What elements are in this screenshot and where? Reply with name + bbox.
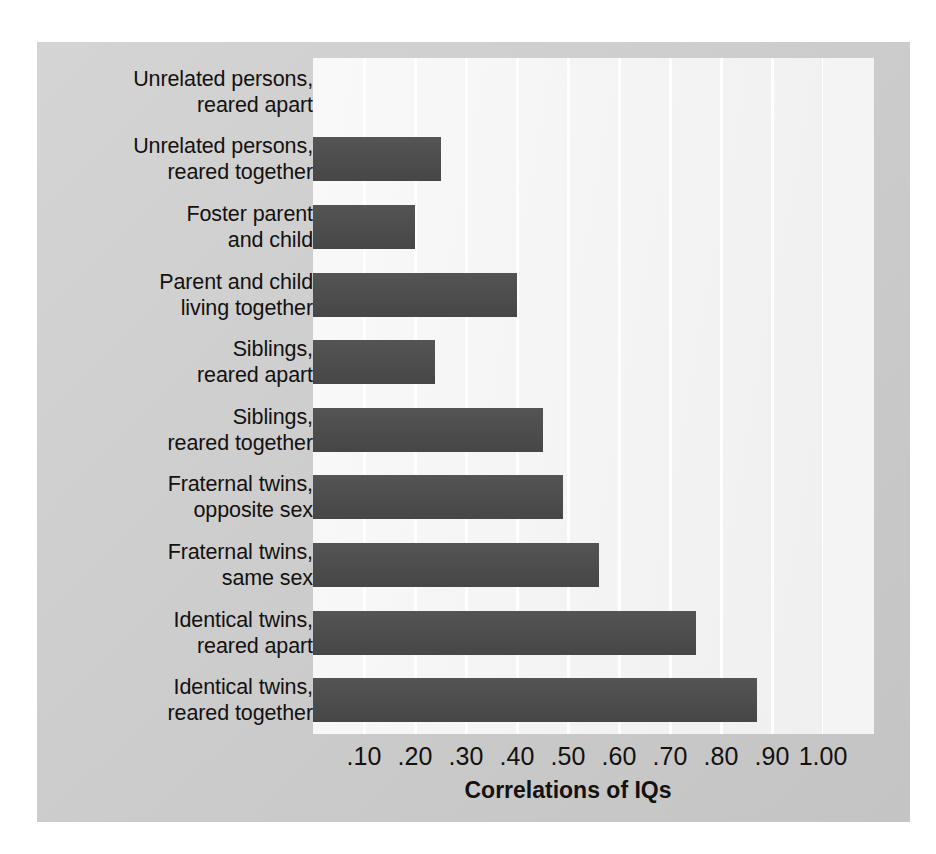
category-label: Siblings,reared apart	[47, 336, 313, 388]
bar	[313, 678, 757, 722]
category-label-line: living together	[47, 295, 313, 321]
category-label: Parent and childliving together	[47, 269, 313, 321]
bar	[313, 543, 599, 587]
x-tick-label: .20	[398, 742, 433, 771]
category-label-line: and child	[47, 227, 313, 253]
category-label: Unrelated persons,reared together	[47, 133, 313, 185]
category-axis-labels: Unrelated persons,reared apartUnrelated …	[47, 58, 313, 734]
x-tick-label: .40	[500, 742, 535, 771]
category-label: Identical twins,reared apart	[47, 607, 313, 659]
bar	[313, 611, 696, 655]
category-label-line: reared together	[47, 430, 313, 456]
x-tick-label: 1.00	[799, 742, 848, 771]
category-label-line: Identical twins,	[47, 674, 313, 700]
category-label-line: Fraternal twins,	[47, 539, 313, 565]
category-label-line: reared apart	[47, 633, 313, 659]
x-tick-label: .60	[602, 742, 637, 771]
x-tick-label: .80	[704, 742, 739, 771]
category-label: Foster parentand child	[47, 201, 313, 253]
bar-chart: Unrelated persons,reared apartUnrelated …	[37, 42, 910, 822]
bar	[313, 205, 415, 249]
gridline	[771, 58, 774, 734]
category-label: Unrelated persons,reared apart	[47, 66, 313, 118]
category-label-line: same sex	[47, 565, 313, 591]
bar	[313, 137, 441, 181]
chart-panel: Unrelated persons,reared apartUnrelated …	[37, 42, 910, 822]
x-tick-label: .50	[551, 742, 586, 771]
category-label: Fraternal twins,opposite sex	[47, 471, 313, 523]
bar	[313, 340, 435, 384]
category-label-line: Unrelated persons,	[47, 66, 313, 92]
x-axis-title: Correlations of IQs	[313, 777, 823, 804]
category-label-line: reared apart	[47, 362, 313, 388]
bar	[313, 475, 563, 519]
category-label-line: reared apart	[47, 92, 313, 118]
plot-area	[313, 58, 823, 734]
category-label-line: Unrelated persons,	[47, 133, 313, 159]
category-label-line: opposite sex	[47, 497, 313, 523]
category-label-line: reared together	[47, 700, 313, 726]
plot-area-tail	[823, 58, 874, 734]
category-label-line: Siblings,	[47, 336, 313, 362]
category-label: Siblings,reared together	[47, 404, 313, 456]
category-label-line: Siblings,	[47, 404, 313, 430]
x-tick-label: .90	[755, 742, 790, 771]
bar	[313, 408, 543, 452]
bar	[313, 273, 517, 317]
category-label: Identical twins,reared together	[47, 674, 313, 726]
gridline	[720, 58, 723, 734]
category-label-line: reared together	[47, 159, 313, 185]
figure: Unrelated persons,reared apartUnrelated …	[0, 0, 936, 854]
category-label-line: Identical twins,	[47, 607, 313, 633]
category-label-line: Foster parent	[47, 201, 313, 227]
category-label-line: Parent and child	[47, 269, 313, 295]
x-tick-label: .30	[449, 742, 484, 771]
x-tick-label: .70	[653, 742, 688, 771]
x-tick-label: .10	[347, 742, 382, 771]
category-label: Fraternal twins,same sex	[47, 539, 313, 591]
x-axis-tick-labels: .10.20.30.40.50.60.70.80.901.00	[313, 742, 923, 776]
category-label-line: Fraternal twins,	[47, 471, 313, 497]
